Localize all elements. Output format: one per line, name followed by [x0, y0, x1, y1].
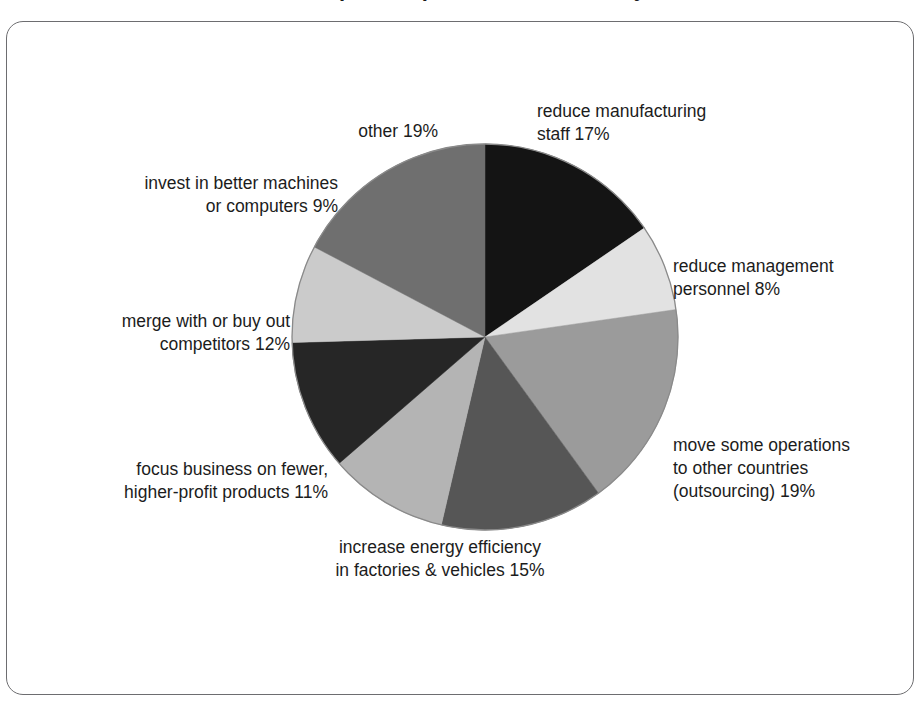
slice-label-other: other 19%: [258, 120, 438, 143]
page-title: some companies' plans for the next 5 yea…: [0, 0, 921, 2]
slice-label-outsourcing: move some operations to other countries …: [673, 434, 903, 502]
slice-label-energy-efficiency: increase energy efficiency in factories …: [280, 536, 600, 582]
slice-label-invest-machines: invest in better machines or computers 9…: [28, 172, 338, 218]
slice-label-reduce-management-personnel: reduce management personnel 8%: [673, 255, 908, 301]
figure-title-strip: some companies' plans for the next 5 yea…: [0, 0, 921, 14]
slice-label-reduce-manufacturing-staff: reduce manufacturing staff 17%: [537, 100, 767, 146]
figure-frame: [6, 21, 914, 695]
slice-label-focus-business: focus business on fewer, higher-profit p…: [28, 458, 328, 504]
slice-label-merge-competitors: merge with or buy out competitors 12%: [28, 310, 290, 356]
